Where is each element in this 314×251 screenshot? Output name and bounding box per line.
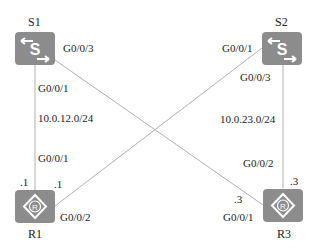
- switch-s1[interactable]: S: [15, 32, 55, 65]
- device-name-r3: R3: [277, 228, 291, 240]
- r1-addr-left: .1: [20, 176, 28, 188]
- subnet-23: 10.0.23.0/24: [220, 113, 275, 125]
- router-r3[interactable]: R: [263, 189, 303, 222]
- router-icon: R: [15, 190, 55, 223]
- r3-addr-left: .3: [234, 193, 242, 205]
- r1-if-g002: G0/0/2: [60, 211, 91, 223]
- svg-text:R: R: [32, 203, 38, 212]
- r1-addr-right: .1: [54, 178, 62, 190]
- switch-icon: S: [15, 32, 55, 65]
- device-name-s1: S1: [28, 16, 41, 28]
- svg-text:S: S: [30, 41, 41, 58]
- router-r1[interactable]: R: [15, 190, 55, 223]
- s1-if-g003: G0/0/3: [63, 42, 94, 54]
- switch-icon: S: [262, 32, 302, 65]
- r3-addr-top: .3: [290, 175, 298, 187]
- router-icon: R: [263, 189, 303, 222]
- svg-text:R: R: [280, 202, 286, 211]
- svg-text:S: S: [277, 41, 288, 58]
- r3-if-g002: G0/0/2: [243, 157, 274, 169]
- s2-if-g003: G0/0/3: [240, 71, 271, 83]
- device-name-s2: S2: [275, 16, 288, 28]
- s2-if-g001: G0/0/1: [222, 42, 253, 54]
- r1-if-g001: G0/0/1: [38, 152, 69, 164]
- r3-if-g001: G0/0/1: [223, 211, 254, 223]
- device-name-r1: R1: [28, 228, 42, 240]
- switch-s2[interactable]: S: [262, 32, 302, 65]
- link-s1-r3: [55, 60, 263, 205]
- s1-if-g001: G0/0/1: [38, 82, 69, 94]
- subnet-12: 10.0.12.0/24: [38, 112, 93, 124]
